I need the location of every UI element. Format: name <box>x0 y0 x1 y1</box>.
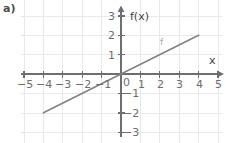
y-tick-label--3: −3 <box>123 127 139 138</box>
y-tick-label-1: 1 <box>108 50 115 61</box>
y-axis-label: f(x) <box>130 11 149 22</box>
x-tick-label--1: −1 <box>95 79 111 90</box>
y-axis-arrow <box>118 6 125 13</box>
x-tick-label--3: −3 <box>55 79 71 90</box>
y-tick-label-3: 3 <box>108 11 115 22</box>
x-tick-label-4: 4 <box>196 79 203 90</box>
x-tick-label-3: 3 <box>176 79 183 90</box>
y-tick-label-2: 2 <box>108 30 115 41</box>
y-tick-label--1: −1 <box>123 88 139 99</box>
curve-label-f: f <box>160 38 163 47</box>
x-axis-label: x <box>209 55 216 66</box>
graph-figure: a) f(x) x f 0 −5 −4 −3 −2 −1 1 2 3 4 5 3… <box>0 0 229 143</box>
panel-label: a) <box>3 3 15 14</box>
x-tick-label--2: −2 <box>75 79 91 90</box>
x-tick-label-5: 5 <box>215 79 222 90</box>
x-tick-label--4: −4 <box>36 79 52 90</box>
x-tick-label--5: −5 <box>17 79 33 90</box>
x-tick-label-2: 2 <box>157 79 164 90</box>
y-tick-label--2: −2 <box>123 108 139 119</box>
